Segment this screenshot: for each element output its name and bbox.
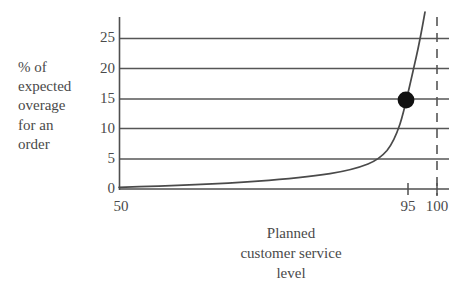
x-tick-label-95: 95: [395, 199, 421, 214]
x-tick-label-100: 100: [421, 199, 453, 214]
y-axis-title-line-1: % of: [18, 58, 114, 77]
x-axis-title-line-1: Planned: [196, 224, 386, 244]
y-axis-title-line-2: expected: [18, 77, 114, 96]
highlighted-point-marker: [398, 92, 415, 109]
y-tick-label-25: 25: [85, 30, 115, 45]
y-tick-label-0: 0: [85, 181, 115, 196]
y-axis-title-line-4: for an: [18, 116, 114, 135]
x-axis-title: Planned customer service level: [196, 224, 386, 283]
chart-figure: 25 20 15 10 5 0 50 95 100 % of expected …: [0, 0, 471, 286]
x-axis-title-line-2: customer service: [196, 244, 386, 264]
y-axis-title: % of expected overage for an order: [18, 58, 114, 154]
y-axis-title-line-5: order: [18, 135, 114, 154]
x-tick-label-50: 50: [108, 199, 134, 214]
x-axis-title-line-3: level: [196, 264, 386, 284]
y-axis-title-line-3: overage: [18, 96, 114, 115]
